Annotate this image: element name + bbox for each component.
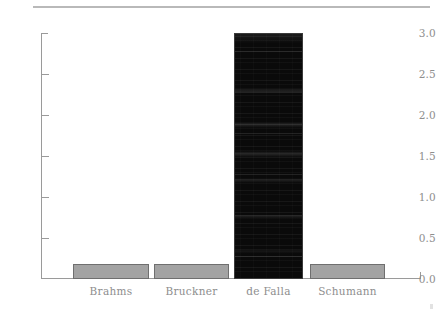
corner-artifact-mark — [430, 304, 433, 309]
bar-bruckner — [154, 264, 229, 279]
bar-de-falla — [234, 33, 303, 279]
y-tick-mark — [42, 156, 49, 157]
x-tick-label-brahms: Brahms — [73, 286, 149, 297]
bar-chart: 3.0 2.5 2.0 1.5 1.0 0.5 0.0 Brahms Bruck… — [0, 0, 436, 313]
bar-schumann — [310, 264, 385, 279]
y-tick-mark — [42, 115, 49, 116]
y-tick-label: 0.5 — [400, 233, 436, 244]
y-tick-label: 1.0 — [400, 192, 436, 203]
y-tick-label: 2.5 — [400, 69, 436, 80]
y-tick-label: 1.5 — [400, 151, 436, 162]
y-tick-label: 2.0 — [400, 110, 436, 121]
y-tick-label: 0.0 — [400, 274, 436, 285]
bar-brahms — [73, 264, 149, 279]
y-axis-top-tick — [41, 33, 48, 34]
y-tick-mark — [42, 197, 49, 198]
y-tick-mark — [42, 74, 49, 75]
bar-texture-streaks — [235, 34, 302, 278]
y-tick-label: 3.0 — [400, 28, 436, 39]
y-tick-mark — [42, 238, 49, 239]
top-divider-rule — [33, 6, 430, 8]
x-tick-label-bruckner: Bruckner — [154, 286, 229, 297]
x-tick-label-de-falla: de Falla — [234, 286, 303, 297]
x-tick-label-schumann: Schumann — [310, 286, 385, 297]
